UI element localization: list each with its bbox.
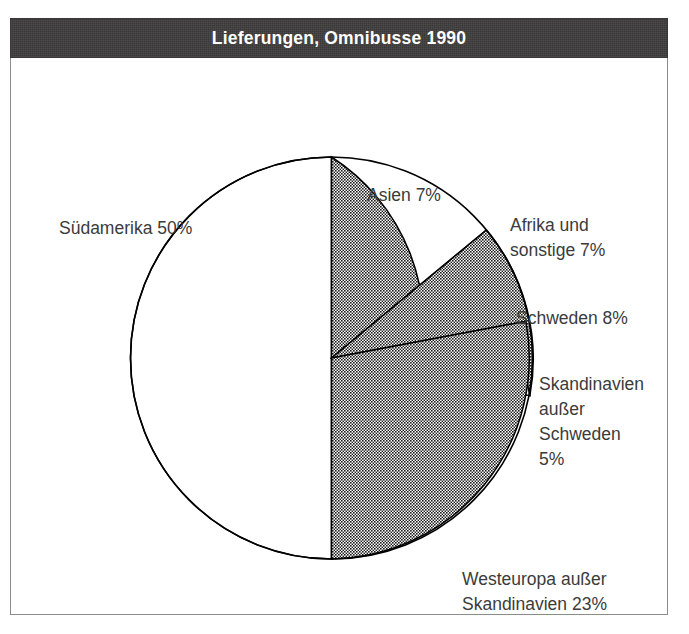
pie-label-skandinavien: Skandinavien außer Schweden 5% bbox=[539, 372, 644, 472]
chart-title-bar: Lieferungen, Omnibusse 1990 bbox=[10, 18, 668, 58]
chart-title: Lieferungen, Omnibusse 1990 bbox=[212, 28, 466, 49]
chart-plot-area: Südamerika 50% Asien 7% Afrika und sonst… bbox=[11, 59, 667, 614]
pie-label-schweden: Schweden 8% bbox=[516, 306, 628, 331]
pie-label-afrika: Afrika und sonstige 7% bbox=[510, 213, 605, 263]
pie-chart bbox=[11, 59, 667, 614]
pie-label-suedamerika: Südamerika 50% bbox=[59, 216, 192, 241]
pie-label-asien: Asien 7% bbox=[367, 183, 441, 208]
pie-slice-westeuropa[interactable] bbox=[332, 321, 530, 559]
pie-label-westeuropa: Westeuropa außer Skandinavien 23% bbox=[462, 567, 607, 617]
